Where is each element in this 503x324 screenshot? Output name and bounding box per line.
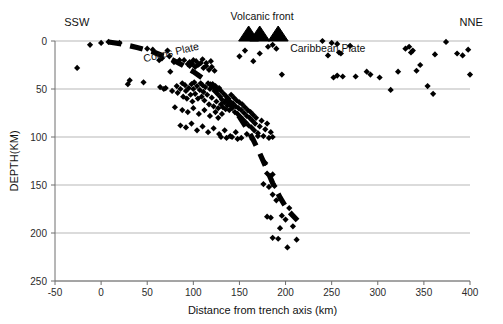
y-tick-label: 200 bbox=[30, 228, 47, 239]
y-tick-label: 100 bbox=[30, 132, 47, 143]
y-tick-label: 250 bbox=[30, 276, 47, 287]
y-tick-label: 0 bbox=[41, 36, 47, 47]
x-tick-label: 150 bbox=[231, 287, 248, 298]
seismic-cross-section-figure: -50050100150200250300350400 050100150200… bbox=[0, 0, 503, 324]
annotation-volcanic-front: Volcanic front bbox=[231, 10, 294, 22]
x-tick-label: 50 bbox=[142, 287, 154, 298]
y-tick-label: 150 bbox=[30, 180, 47, 191]
compass-label-ssw: SSW bbox=[64, 16, 90, 28]
annotation-caribbean-plate: Caribbean Plate bbox=[290, 42, 365, 54]
x-tick-label: 100 bbox=[185, 287, 202, 298]
x-tick-label: 300 bbox=[369, 287, 386, 298]
x-tick-label: 350 bbox=[416, 287, 433, 298]
x-tick-label: 250 bbox=[323, 287, 340, 298]
x-tick-label: -50 bbox=[48, 287, 63, 298]
x-tick-label: 200 bbox=[277, 287, 294, 298]
figure-background bbox=[0, 0, 503, 324]
chart-canvas: -50050100150200250300350400 050100150200… bbox=[0, 0, 503, 324]
x-tick-label: 0 bbox=[98, 287, 104, 298]
y-tick-label: 50 bbox=[36, 84, 48, 95]
x-tick-label: 400 bbox=[462, 287, 479, 298]
x-axis-title: Distance from trench axis (km) bbox=[188, 304, 337, 316]
compass-label-nne: NNE bbox=[460, 16, 483, 28]
y-axis-title: DEPTH(KM) bbox=[8, 130, 20, 191]
